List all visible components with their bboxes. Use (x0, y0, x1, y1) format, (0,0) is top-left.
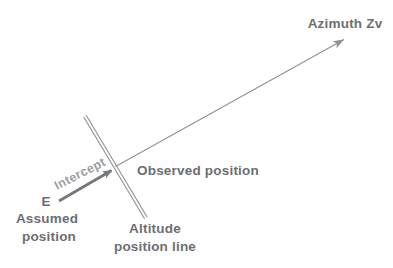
navigation-intercept-diagram: Azimuth Zv Observed position Intercept E… (0, 0, 393, 268)
intercept-label: Intercept (52, 155, 108, 193)
diagram-canvas: Azimuth Zv Observed position Intercept E… (0, 0, 393, 268)
assumed-position-label-line2: position (22, 229, 76, 244)
observed-position-label: Observed position (137, 163, 259, 178)
azimuth-line (116, 40, 345, 167)
altitude-position-line-label-line2: position line (114, 239, 196, 254)
assumed-position-marker: E (41, 194, 50, 209)
azimuth-label: Azimuth Zv (308, 16, 383, 31)
assumed-position-label-line1: Assumed (16, 211, 78, 226)
altitude-position-line-label-line1: Altitude (129, 221, 181, 236)
